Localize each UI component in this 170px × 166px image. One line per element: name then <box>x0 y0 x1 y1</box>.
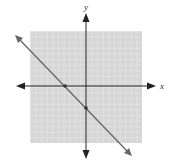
x-axis-label: x <box>159 81 164 91</box>
y-axis-label: y <box>83 2 88 12</box>
y-intercept-point <box>84 106 88 110</box>
coordinate-plane: x y <box>0 0 170 166</box>
x-intercept-point <box>63 84 67 88</box>
